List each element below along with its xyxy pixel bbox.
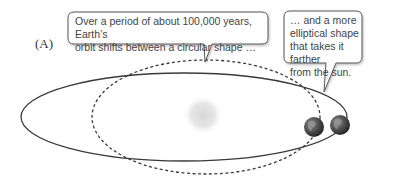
bubble-line: that takes it farther — [290, 40, 365, 66]
bubble-text-elliptical: … and a more elliptical shape that takes… — [290, 14, 365, 79]
bubble-line: orbit shifts between a circular shape … — [75, 41, 270, 54]
bubble-line: elliptical shape — [290, 27, 365, 40]
bubble-line: … and a more — [290, 14, 365, 27]
earth-icon-circular — [304, 117, 324, 137]
bubble-line: from the sun. — [290, 66, 365, 79]
sun-icon — [183, 95, 223, 135]
panel-label: (A) — [35, 36, 53, 52]
earth-icon-elliptical — [330, 115, 350, 135]
bubble-text-circular: Over a period of about 100,000 years, Ea… — [75, 15, 270, 54]
bubble-line: Over a period of about 100,000 years, Ea… — [75, 15, 270, 41]
